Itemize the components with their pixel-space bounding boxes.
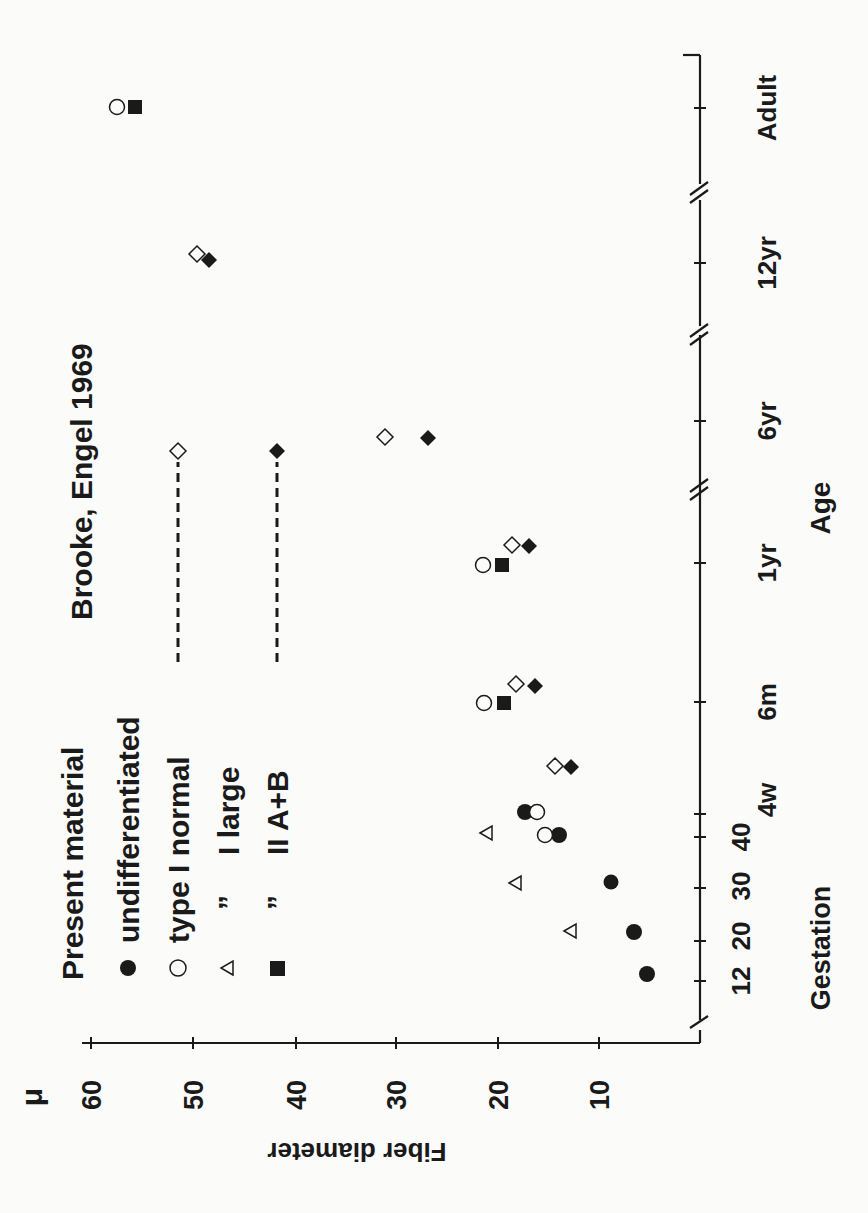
legend-label-type1-large: I large bbox=[212, 767, 245, 855]
legend-label-undifferentiated: undifferentiated bbox=[112, 716, 145, 943]
series-type1-normal bbox=[110, 100, 553, 843]
legend-filled-diamond-icon bbox=[269, 443, 285, 459]
y-tick-40: 40 bbox=[282, 1080, 312, 1110]
x-axis-title: Age bbox=[805, 482, 836, 535]
series-brooke-engel-type2 bbox=[201, 252, 579, 775]
x-axis-secondary-title: Gestation bbox=[806, 886, 836, 1011]
series-undifferentiated bbox=[517, 804, 655, 982]
legend-ditto-4: ” bbox=[261, 895, 294, 910]
x-axis bbox=[683, 55, 708, 1043]
y-axis bbox=[82, 1037, 700, 1049]
legend-open-circle-icon bbox=[170, 960, 186, 976]
x-tick-adult: Adult bbox=[752, 74, 782, 141]
x-tick-4w: 4w bbox=[752, 782, 782, 817]
x-tick-6m: 6m bbox=[752, 683, 782, 721]
series-brooke-engel-type1 bbox=[189, 246, 563, 774]
y-axis-title: Fiber diameter bbox=[267, 1137, 446, 1167]
chart: 60 50 40 30 20 10 μ Fiber diameter bbox=[0, 0, 868, 1213]
series-type1-large bbox=[480, 826, 576, 938]
series-type2-ab bbox=[128, 100, 511, 710]
x-tick-gest-30: 30 bbox=[726, 872, 756, 901]
legend-label-type1-normal: type I normal bbox=[162, 756, 195, 943]
legend: Present material undifferentiated type I… bbox=[56, 343, 294, 980]
y-tick-60: 60 bbox=[77, 1080, 107, 1110]
y-tick-30: 30 bbox=[382, 1080, 412, 1110]
y-tick-50: 50 bbox=[179, 1080, 209, 1110]
reference-label: Brooke, Engel 1969 bbox=[65, 343, 98, 620]
x-tick-labels: 12 20 30 40 4w 6m 1yr 6yr 12yr Adult bbox=[726, 74, 782, 995]
x-tick-gest-20: 20 bbox=[726, 922, 756, 951]
legend-open-triangle-icon bbox=[221, 961, 233, 975]
legend-label-type2-ab: II A+B bbox=[261, 770, 294, 855]
y-tick-20: 20 bbox=[484, 1080, 514, 1110]
y-unit: μ bbox=[15, 1088, 48, 1106]
legend-filled-square-icon bbox=[270, 961, 285, 976]
legend-heading: Present material bbox=[56, 747, 89, 980]
x-tick-gest-12: 12 bbox=[726, 967, 756, 996]
x-tick-gest-40: 40 bbox=[726, 823, 756, 852]
x-tick-1yr: 1yr bbox=[752, 543, 782, 582]
legend-open-diamond-icon bbox=[170, 443, 186, 459]
y-tick-labels: 60 50 40 30 20 10 μ bbox=[15, 1080, 615, 1110]
x-tick-6yr: 6yr bbox=[752, 401, 782, 440]
legend-filled-circle-icon bbox=[120, 960, 136, 976]
y-tick-10: 10 bbox=[585, 1080, 615, 1110]
x-tick-12yr: 12yr bbox=[752, 236, 782, 290]
legend-ditto-3: ” bbox=[212, 895, 245, 910]
